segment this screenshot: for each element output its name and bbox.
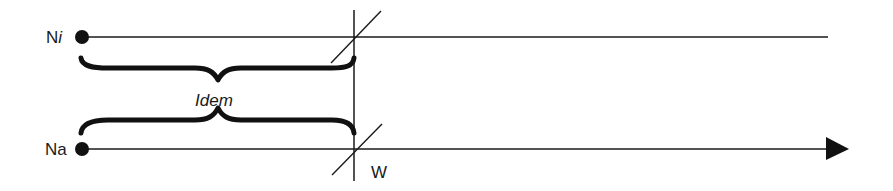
ni-label-suffix: i bbox=[58, 28, 62, 47]
idem-label: Idem bbox=[195, 92, 233, 109]
diagram-canvas bbox=[0, 0, 893, 191]
na-label-main: Na bbox=[45, 140, 67, 159]
w-label: W bbox=[371, 164, 387, 181]
na-label: Na bbox=[45, 141, 67, 158]
ni-dot bbox=[75, 30, 89, 44]
arrowhead-icon bbox=[826, 137, 849, 160]
na-dot bbox=[75, 142, 89, 156]
upper-brace bbox=[81, 58, 354, 80]
lower-brace bbox=[81, 108, 354, 133]
ni-label-main: N bbox=[46, 28, 58, 47]
ni-label: Ni bbox=[46, 29, 62, 46]
